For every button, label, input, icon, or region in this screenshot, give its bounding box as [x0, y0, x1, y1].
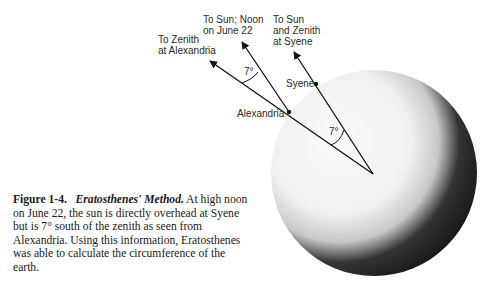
- label-sun-noon-2: on June 22: [203, 25, 253, 36]
- earth-sphere: [271, 70, 477, 276]
- figure-caption: Figure 1-4. Eratosthenes' Method. At hig…: [13, 193, 253, 275]
- label-sun-syene-3: at Syene: [273, 36, 313, 47]
- label-syene: Syene: [286, 78, 315, 89]
- label-alexandria: Alexandria: [237, 108, 285, 119]
- label-sun-noon-1: To Sun; Noon: [203, 14, 264, 25]
- figure-title: Eratosthenes' Method.: [76, 193, 184, 206]
- label-zenith-alexandria-1: To Zenith: [158, 34, 199, 45]
- label-sun-syene-1: To Sun: [273, 14, 304, 25]
- label-zenith-alexandria-2: at Alexandria: [158, 45, 216, 56]
- label-sun-syene-2: and Zenith: [273, 25, 320, 36]
- figure-page: To Zenith at Alexandria To Sun; Noon on …: [0, 0, 494, 299]
- sun-ray-alexandria-arrow: [242, 42, 289, 112]
- syene-dot: [314, 82, 318, 86]
- label-angle-top: 7°: [244, 66, 254, 77]
- figure-number: Figure 1-4.: [13, 193, 67, 206]
- alexandria-dot: [287, 110, 291, 114]
- label-angle-center: 7°: [329, 126, 339, 137]
